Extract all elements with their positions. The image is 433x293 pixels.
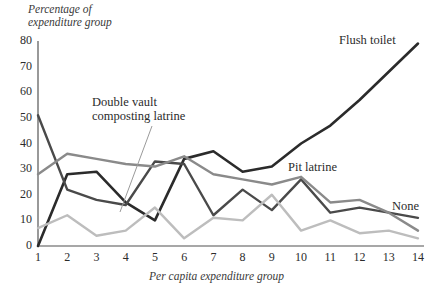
- series-line-flush-toilet: [38, 44, 418, 246]
- annotation-flush-toilet: Flush toilet: [339, 33, 396, 48]
- series-line-double-vault-composting-latrine: [38, 115, 418, 218]
- axes-lines: [38, 41, 424, 246]
- chart-container: Percentage of expenditure group 01020304…: [0, 0, 433, 293]
- data-series-group: [38, 44, 418, 246]
- double-vault-leader-line: [120, 126, 152, 212]
- annotation-leader-line: [120, 126, 152, 212]
- annotation-pit-latrine: Pit latrine: [288, 160, 337, 175]
- annotation-double-vault-composting-latrine: Double vault composting latrine: [92, 95, 185, 123]
- annotation-double-vault-line2: composting latrine: [92, 109, 185, 123]
- annotation-double-vault-line1: Double vault: [92, 95, 185, 109]
- annotation-none: None: [392, 199, 419, 214]
- x-axis-title: Per capita expenditure group: [0, 270, 433, 283]
